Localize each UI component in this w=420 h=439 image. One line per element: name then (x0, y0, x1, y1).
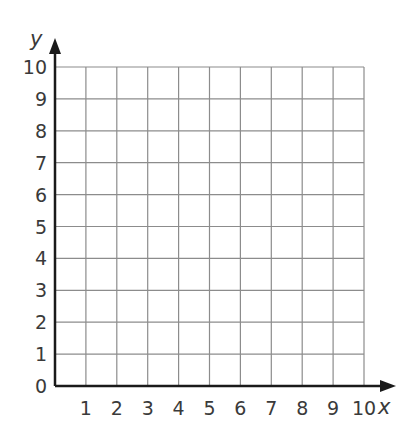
x-tick-label: 6 (234, 397, 246, 419)
x-tick-label: 9 (327, 397, 339, 419)
y-axis-label: y (29, 27, 43, 51)
x-tick-label: 8 (296, 397, 308, 419)
y-tick-label: 5 (35, 216, 47, 238)
x-tick-label: 5 (203, 397, 215, 419)
x-tick-label: 2 (111, 397, 123, 419)
y-tick-label: 8 (35, 120, 47, 142)
gridlines (55, 67, 364, 386)
y-tick-label: 3 (35, 279, 47, 301)
x-tick-label: 10 (352, 397, 376, 419)
y-tick-label: 10 (23, 56, 47, 78)
y-tick-label: 0 (35, 375, 47, 397)
x-tick-label: 4 (173, 397, 185, 419)
x-axis-label: x (377, 395, 391, 419)
coordinate-grid: 12345678910 012345678910 x y (0, 0, 420, 439)
y-tick-label: 4 (35, 247, 47, 269)
y-tick-label: 9 (35, 88, 47, 110)
y-tick-label: 1 (35, 343, 47, 365)
x-tick-label: 3 (142, 397, 154, 419)
y-axis-arrow-icon (49, 38, 61, 54)
y-tick-label: 6 (35, 184, 47, 206)
x-tick-labels: 12345678910 (80, 397, 376, 419)
y-tick-labels: 012345678910 (23, 56, 47, 397)
x-axis-arrow-icon (380, 380, 396, 392)
x-tick-label: 7 (265, 397, 277, 419)
y-tick-label: 2 (35, 311, 47, 333)
x-tick-label: 1 (80, 397, 92, 419)
y-tick-label: 7 (35, 152, 47, 174)
